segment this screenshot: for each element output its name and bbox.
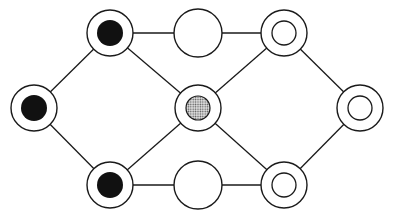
filled-dot-icon xyxy=(21,95,47,121)
node-outer-circle xyxy=(174,161,222,209)
filled-dot-icon xyxy=(97,172,123,198)
open-ring-icon xyxy=(272,173,296,197)
filled-dot-icon xyxy=(97,20,123,46)
node-bottom-right xyxy=(261,162,307,208)
open-ring-icon xyxy=(348,96,372,120)
node-bottom-middle xyxy=(174,161,222,209)
node-outer-circle xyxy=(174,9,222,57)
node-center xyxy=(175,85,221,131)
open-ring-icon xyxy=(272,21,296,45)
graph-diagram xyxy=(0,0,398,224)
nodes xyxy=(11,9,383,209)
node-top-right xyxy=(261,10,307,56)
dotted-dot-icon xyxy=(186,96,210,120)
node-top-middle xyxy=(174,9,222,57)
node-right xyxy=(337,85,383,131)
node-top-left xyxy=(87,10,133,56)
node-bottom-left xyxy=(87,162,133,208)
node-left xyxy=(11,85,57,131)
